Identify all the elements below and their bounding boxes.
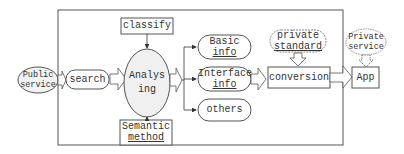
search-label: search [66,74,109,85]
basic-info-label: Basic info [198,36,251,58]
analysing-label: Analys ing [124,70,170,95]
public-service-line2: service [18,80,58,90]
hollow-arrow-private-service-to-app [359,55,373,67]
private-svc-line1: Private [346,32,386,42]
app-label: App [352,72,379,83]
private-svc-line2: service [346,42,386,52]
others-label: others [198,104,251,115]
analysing-line2: ing [124,84,170,95]
hollow-arrow-analysing-to-branch [170,68,182,92]
classify-label: classify [121,20,173,31]
public-service-label: Public service [18,70,58,90]
hollow-arrow-conversion-to-app [330,66,352,88]
private-std-line1: private [270,30,326,41]
hollow-arrow-public-to-search [58,71,66,89]
semantic-method-label: Semantic method [120,121,172,143]
interface-line2: info [198,79,251,90]
semantic-line2: method [120,132,172,143]
basic-line2: info [198,47,251,58]
private-std-line2: standard [270,41,326,52]
interface-info-label: Interface info [198,68,251,90]
semantic-line1: Semantic [120,121,172,132]
interface-line1: Interface [198,68,251,79]
conversion-label: conversion [268,72,330,83]
hollow-arrow-standard-to-conversion [290,53,306,66]
private-standard-label: private standard [270,30,326,52]
basic-line1: Basic [198,36,251,47]
hollow-arrow-interface-to-conversion [251,68,266,90]
private-service-label: Private service [346,32,386,52]
analysing-line1: Analys [124,70,170,81]
public-service-line1: Public [18,70,58,80]
